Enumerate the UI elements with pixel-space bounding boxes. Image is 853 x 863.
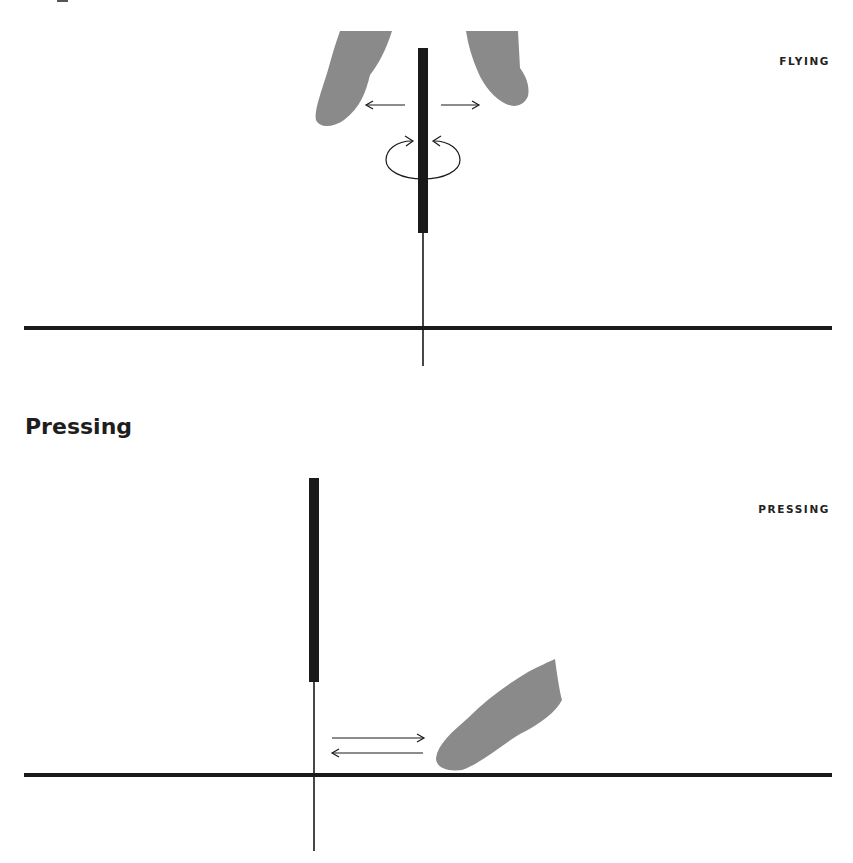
pen-barrel-icon: [309, 478, 319, 682]
pressing-panel: [24, 478, 832, 851]
pen-barrel-icon: [418, 48, 428, 233]
flying-surface-line: [24, 326, 832, 330]
diagram-canvas: [0, 0, 853, 863]
left-finger-icon: [316, 31, 392, 126]
pressing-surface-line: [24, 773, 832, 777]
pressing-finger-icon: [436, 659, 562, 771]
flying-panel: [24, 31, 832, 366]
right-finger-icon: [466, 31, 529, 106]
